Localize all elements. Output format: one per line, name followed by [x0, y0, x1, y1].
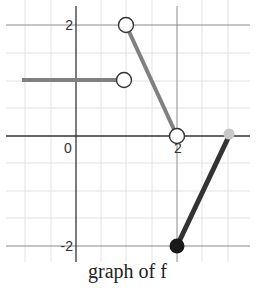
open-point-1-2 [119, 18, 134, 33]
closed-point-2-neg2 [170, 239, 185, 254]
chart-caption: graph of f [88, 260, 167, 283]
x-tick-0: 0 [64, 140, 72, 156]
open-point-2-0 [170, 129, 185, 144]
y-tick-neg2: -2 [61, 238, 74, 254]
y-tick-2: 2 [65, 17, 73, 33]
grid [6, 0, 250, 262]
axes [6, 6, 250, 262]
open-point-1-1 [117, 73, 132, 88]
closed-point-2_5-0 [224, 129, 235, 140]
graph-of-f: 2 -2 0 2 graph of f [0, 0, 267, 292]
major-grid [6, 6, 250, 262]
